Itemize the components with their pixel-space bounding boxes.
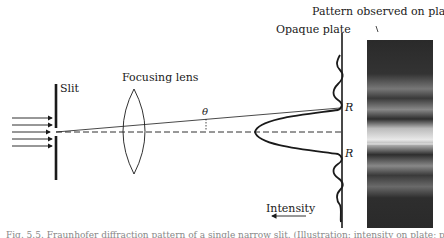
pattern-pointer xyxy=(376,26,378,32)
pattern-observed-label: Pattern observed on plate xyxy=(312,6,444,17)
diffracted-ray xyxy=(56,108,340,132)
focusing-lens-label: Focusing lens xyxy=(122,72,198,83)
fringe-pattern xyxy=(367,40,433,228)
r-upper-label: R xyxy=(345,102,353,113)
diffraction-diagram xyxy=(0,0,444,238)
r-lower-label: R xyxy=(345,148,353,159)
slit-label: Slit xyxy=(60,83,79,94)
focusing-lens xyxy=(123,89,145,174)
intensity-curve xyxy=(255,55,343,222)
figure-caption: Fig. 5.5. Fraunhofer diffraction pattern… xyxy=(6,230,444,238)
theta-label: θ xyxy=(202,107,208,117)
opaque-plate-label: Opaque plate xyxy=(276,24,351,35)
incoming-rays xyxy=(12,118,52,146)
intensity-label: Intensity xyxy=(266,203,315,214)
